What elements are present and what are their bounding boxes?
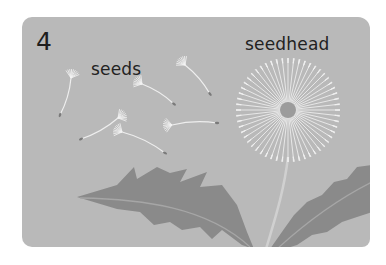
seeds-label: seeds [91, 59, 141, 79]
seedhead-label: seedhead [245, 34, 330, 54]
seed-icon [163, 118, 219, 132]
illustration-panel: 4 seeds seedhead [22, 17, 370, 247]
seed-icon [176, 56, 212, 96]
seed-icon [78, 109, 126, 141]
seed-icon [58, 69, 79, 117]
seed-icon [133, 75, 176, 106]
figure-number: 4 [36, 27, 52, 56]
seedhead-icon [236, 58, 340, 162]
seed-icon [113, 123, 168, 155]
seedhead-center [280, 102, 296, 118]
